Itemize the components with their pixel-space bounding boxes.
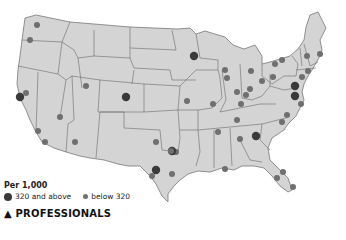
map-title: ▲ PROFESSIONALS: [4, 208, 111, 219]
city-dot-high: [252, 132, 260, 140]
city-dot-high: [16, 93, 24, 101]
city-dot-low: [259, 78, 265, 84]
city-dot-low: [23, 90, 29, 96]
city-dot-high: [291, 82, 299, 90]
legend-title: Per 1,000: [4, 181, 130, 190]
city-dot-low: [290, 184, 296, 190]
small-dot-icon: [83, 194, 88, 199]
city-dot-low: [153, 139, 159, 145]
city-dot-low: [215, 129, 221, 135]
city-dot-low: [248, 68, 254, 74]
city-dot-low: [298, 101, 304, 107]
city-dot-low: [317, 51, 323, 57]
city-dot-low: [42, 139, 48, 145]
city-dot-low: [57, 114, 63, 120]
city-dot-low: [237, 136, 243, 142]
title-text: PROFESSIONALS: [16, 208, 112, 219]
city-dot-low: [184, 98, 190, 104]
city-dot-low: [34, 22, 40, 28]
city-dot-low: [272, 61, 278, 67]
legend: Per 1,000 320 and above below 320: [4, 181, 130, 201]
city-dot-low: [35, 128, 41, 134]
city-dot-low: [274, 175, 280, 181]
city-dot-low: [243, 92, 249, 98]
city-dot-high: [190, 52, 198, 60]
city-dot-low: [72, 139, 78, 145]
city-dot-high: [152, 166, 160, 174]
city-dot-low: [284, 112, 290, 118]
legend-items: 320 and above below 320: [4, 192, 130, 201]
city-dot-low: [222, 166, 228, 172]
city-dot-low: [299, 74, 305, 80]
city-dot-low: [305, 68, 311, 74]
city-dot-low: [279, 119, 285, 125]
city-dot-low: [247, 86, 253, 92]
city-dot-low: [169, 171, 175, 177]
city-dot-low: [238, 101, 244, 107]
city-dot-low: [270, 74, 276, 80]
triangle-icon: ▲: [4, 208, 12, 219]
legend-label-low: below 320: [91, 192, 130, 201]
large-dot-icon: [4, 193, 12, 201]
legend-label-high: 320 and above: [15, 192, 71, 201]
city-dot-low: [222, 67, 228, 73]
city-dot-high: [291, 92, 299, 100]
city-dot-low: [27, 37, 33, 43]
city-dot-low: [234, 117, 240, 123]
city-dot-low: [168, 148, 174, 154]
city-dot-low: [280, 169, 286, 175]
city-dot-low: [304, 53, 310, 59]
city-dot-low: [210, 101, 216, 107]
city-dot-high: [122, 93, 130, 101]
city-dot-low: [149, 173, 155, 179]
city-dot-low: [83, 83, 89, 89]
city-dot-low: [234, 89, 240, 95]
city-dot-low: [279, 57, 285, 63]
city-dot-low: [224, 75, 230, 81]
